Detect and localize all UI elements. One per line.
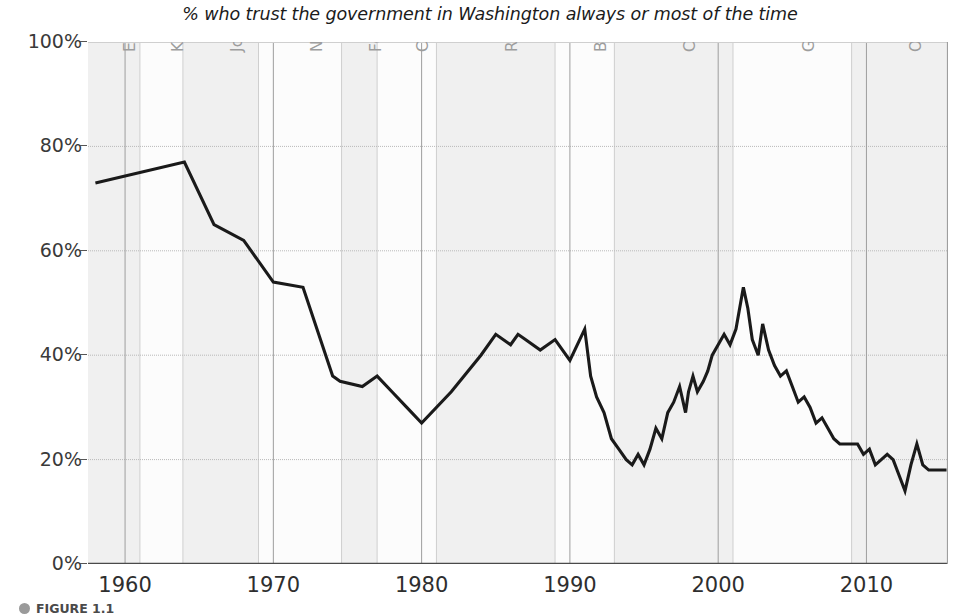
chart-title: % who trust the government in Washington… [90, 4, 890, 24]
administration-band [555, 42, 614, 564]
x-axis-tick-label: 1970 [228, 573, 318, 597]
administration-label: Ford [367, 42, 385, 52]
administration-bands [88, 42, 948, 564]
y-axis-tick-label: 100% [6, 30, 82, 52]
y-axis-tick: 40% [0, 343, 82, 367]
administration-band [377, 42, 436, 564]
administration-label: G. W. Bush [800, 42, 818, 52]
administration-label: Clinton [681, 42, 699, 52]
administration-label: Carter [414, 42, 432, 52]
administration-band [614, 42, 733, 564]
y-axis-tick-label: 80% [6, 134, 82, 156]
administration-band [342, 42, 378, 564]
administration-band [88, 42, 140, 564]
chart-plot-svg [88, 42, 948, 564]
x-axis-tick-label: 1990 [525, 573, 615, 597]
administration-label: Kennedy [169, 42, 187, 52]
administration-band [259, 42, 342, 564]
figure-caption-label: FIGURE 1.1 [36, 601, 114, 615]
x-axis-tick-label: 1980 [377, 573, 467, 597]
administration-label: Bush [592, 42, 610, 52]
administration-label: Eisenhower [121, 42, 139, 52]
administration-label: Nixon [308, 42, 326, 52]
bullet-dot-icon [19, 603, 30, 614]
y-axis-tick-mark [80, 145, 87, 146]
y-axis-tick-mark [80, 459, 87, 460]
x-axis-tick-label: 1960 [80, 573, 170, 597]
administration-label: Obama [907, 42, 925, 52]
y-axis-tick-mark [80, 563, 87, 564]
y-axis-tick-mark [80, 250, 87, 251]
administration-band [183, 42, 259, 564]
y-axis-tick: 60% [0, 239, 82, 263]
administration-label: Reagan [503, 42, 521, 52]
administration-band [436, 42, 555, 564]
administration-label: Johnson [228, 42, 246, 52]
y-axis-tick-label: 60% [6, 239, 82, 261]
plot-area: EisenhowerKennedyJohnsonNixonFordCarterR… [88, 42, 948, 564]
y-axis: 100%80%60%40%20%0% [0, 42, 82, 564]
administration-band [733, 42, 852, 564]
figure-caption: FIGURE 1.1 [0, 600, 959, 615]
administration-band [140, 42, 183, 564]
y-axis-tick-mark [80, 354, 87, 355]
y-axis-tick: 100% [0, 30, 82, 54]
y-axis-tick: 80% [0, 134, 82, 158]
x-axis-tick-label: 2000 [673, 573, 763, 597]
y-axis-tick-label: 40% [6, 343, 82, 365]
x-axis-tick-label: 2010 [821, 573, 911, 597]
y-axis-tick: 20% [0, 448, 82, 472]
y-axis-tick-mark [80, 41, 87, 42]
y-axis-tick-label: 20% [6, 448, 82, 470]
figure-container: % who trust the government in Washington… [0, 0, 959, 615]
